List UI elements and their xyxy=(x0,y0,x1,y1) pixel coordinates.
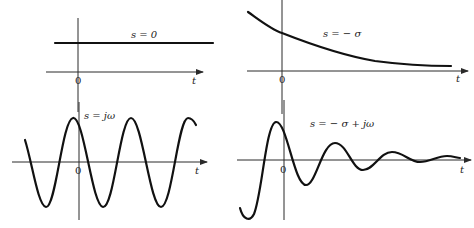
origin-label: 0 xyxy=(280,164,286,175)
panel-label: s = jω xyxy=(84,110,115,121)
time-axis-label: t xyxy=(195,165,200,176)
time-axis-label: t xyxy=(456,73,461,84)
exponential-decay-curve xyxy=(248,12,451,66)
time-axis-label: t xyxy=(460,164,465,175)
panel-label: s = 0 xyxy=(131,29,158,40)
panel-label: s = − σ + jω xyxy=(310,118,374,129)
panel-bottom-right: s = − σ + jω 0 t xyxy=(237,100,471,220)
origin-label: 0 xyxy=(75,75,81,86)
panel-bottom-left: s = jω 0 t xyxy=(12,102,207,220)
origin-label: 0 xyxy=(279,74,285,85)
origin-label: 0 xyxy=(75,165,81,176)
damped-sinusoid-curve xyxy=(240,122,460,219)
complex-frequency-diagram: s = 0 0 t s = − σ 0 t s = jω 0 t s = − σ… xyxy=(0,0,474,228)
panel-top-right: s = − σ 0 t xyxy=(247,0,468,114)
panel-label: s = − σ xyxy=(323,28,362,39)
time-axis-label: t xyxy=(192,75,197,86)
panel-top-left: s = 0 0 t xyxy=(46,18,213,112)
